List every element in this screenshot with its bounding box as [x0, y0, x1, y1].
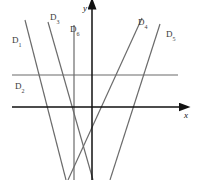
line-d4	[68, 18, 142, 180]
axes-group	[12, 8, 180, 180]
x-axis-label: x	[183, 110, 188, 120]
geometry-figure: x y D1 D2 D3 D4 D5 D6	[0, 0, 199, 180]
line-d5	[110, 24, 160, 180]
line-label-d3: D3	[50, 12, 60, 25]
line-group	[12, 18, 178, 180]
line-label-d2: D2	[15, 81, 25, 94]
line-label-d6: D6	[70, 24, 80, 37]
line-label-d5: D5	[166, 29, 176, 42]
line-d1	[25, 20, 66, 180]
line-label-d4: D4	[138, 17, 148, 30]
figure-canvas: x y D1 D2 D3 D4 D5 D6	[0, 0, 199, 180]
line-label-d1: D1	[12, 35, 22, 48]
y-axis-label: y	[82, 3, 87, 13]
line-d3	[48, 22, 93, 180]
